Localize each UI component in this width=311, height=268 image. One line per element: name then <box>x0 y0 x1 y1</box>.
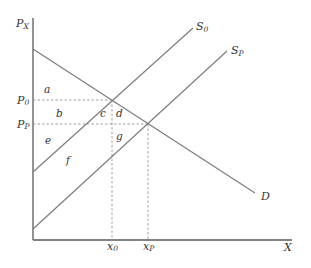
area-c: c <box>100 107 106 119</box>
area-d: d <box>116 107 123 119</box>
area-a: a <box>44 83 50 95</box>
area-e: e <box>45 134 51 146</box>
xp-label: xP <box>143 240 155 253</box>
supply-curve-sp <box>33 51 227 229</box>
demand-curve <box>33 49 255 193</box>
x-axis-label: X <box>283 241 293 254</box>
s0-label: S0 <box>196 20 209 34</box>
y-axis-label: PX <box>15 17 29 31</box>
p0-label: P0 <box>16 94 29 107</box>
pp-label: PP <box>16 118 30 131</box>
supply-demand-diagram: PX X S0 SP D P0 PP x0 xP a b c d e f g <box>0 0 311 268</box>
area-g: g <box>116 130 123 142</box>
x0-label: x0 <box>107 240 118 253</box>
d-label: D <box>260 190 270 203</box>
area-f: f <box>65 154 72 166</box>
sp-label: SP <box>231 44 245 58</box>
area-b: b <box>56 107 63 119</box>
